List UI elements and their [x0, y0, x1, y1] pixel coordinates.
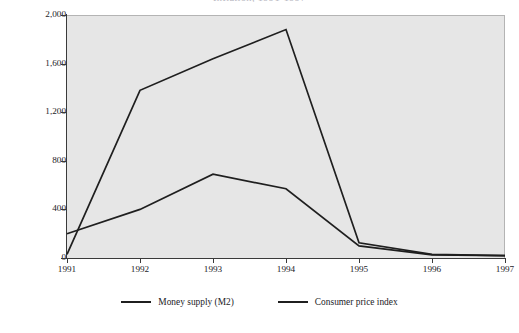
x-tick-label: 1991 — [44, 264, 90, 274]
x-tick-label: 1993 — [190, 264, 236, 274]
x-tick-label: 1996 — [409, 264, 455, 274]
legend-swatch-icon — [121, 301, 151, 303]
y-tick-label: 1,600 — [18, 59, 66, 68]
x-tick-mark — [286, 258, 287, 263]
y-tick-label: 2,000 — [18, 10, 66, 19]
x-tick-mark — [359, 258, 360, 263]
x-tick-mark — [213, 258, 214, 263]
x-tick-label: 1997 — [482, 264, 519, 274]
y-tick-mark — [61, 209, 67, 210]
legend-item-2[interactable]: Consumer price index — [278, 297, 398, 307]
legend-swatch-icon — [278, 301, 308, 303]
x-tick-mark — [505, 258, 506, 263]
x-tick-mark — [67, 258, 68, 263]
x-tick-mark — [140, 258, 141, 263]
legend-label: Consumer price index — [315, 297, 398, 307]
y-axis-line — [66, 14, 67, 259]
y-tick-mark — [61, 64, 67, 65]
chart-legend: Money supply (M2)Consumer price index — [0, 297, 519, 307]
plot-area — [67, 15, 505, 258]
x-tick-label: 1992 — [117, 264, 163, 274]
y-tick-label: 800 — [18, 156, 66, 165]
x-tick-mark — [432, 258, 433, 263]
chart-container: Inflation, 1991-1997 Percentage change 2… — [0, 0, 519, 333]
y-tick-label: 400 — [18, 204, 66, 213]
legend-item-1[interactable]: Money supply (M2) — [121, 297, 234, 307]
chart-title: Inflation, 1991-1997 — [0, 0, 519, 2]
y-tick-mark — [61, 112, 67, 113]
x-tick-label: 1995 — [336, 264, 382, 274]
legend-label: Money supply (M2) — [158, 297, 234, 307]
y-tick-label: 0 — [18, 253, 66, 262]
y-tick-mark — [61, 161, 67, 162]
x-tick-label: 1994 — [263, 264, 309, 274]
y-tick-label: 1,200 — [18, 107, 66, 116]
y-tick-mark — [61, 15, 67, 16]
